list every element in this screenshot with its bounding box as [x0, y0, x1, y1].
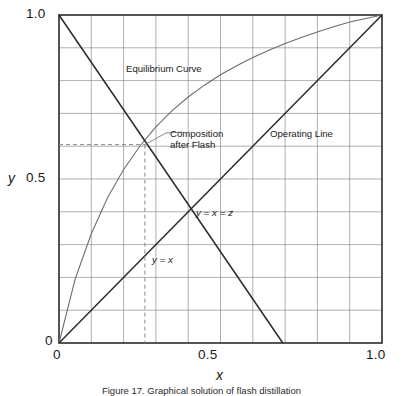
equilibrium-curve-label: Equilibrium Curve	[126, 63, 202, 74]
figure-caption: Figure 17. Graphical solution of flash d…	[0, 385, 403, 396]
composition-after-flash-label: Composition after Flash	[170, 128, 223, 151]
y-x-label: y = x	[152, 254, 173, 265]
flash-composition-guides	[59, 145, 145, 343]
y-axis-title: y	[8, 170, 15, 186]
x-axis-title: x	[216, 367, 223, 383]
y-axis-tick-0-5: 0.5	[26, 170, 45, 185]
x-axis-tick-0-5: 0.5	[198, 347, 217, 362]
x-axis-tick-0: 0	[53, 347, 61, 362]
operating-line-label: Operating Line	[270, 128, 333, 139]
composition-after-flash-line1: Composition	[170, 128, 223, 139]
y-axis-tick-1-0: 1.0	[26, 6, 45, 21]
y-x-z-label: y = x = z	[196, 207, 233, 218]
y-axis-tick-0: 0	[45, 333, 53, 348]
composition-after-flash-line2: after Flash	[170, 139, 223, 150]
x-axis-tick-1-0: 1.0	[366, 347, 385, 362]
